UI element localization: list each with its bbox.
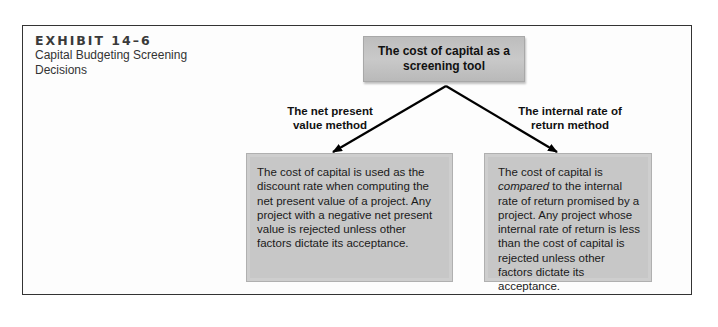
- root-node-cost-of-capital: The cost of capital as a screening tool: [363, 36, 525, 82]
- irr-description-text-end: to the internal rate of return promised …: [498, 180, 640, 292]
- irr-description-box: The cost of capital is compared to the i…: [484, 153, 652, 282]
- root-node-label: The cost of capital as a screening tool: [372, 44, 516, 74]
- npv-description-text: The cost of capital is used as the disco…: [257, 166, 432, 249]
- irr-description-text-start: The cost of capital is: [498, 166, 603, 178]
- npv-description-box: The cost of capital is used as the disco…: [246, 153, 453, 282]
- irr-method-label: The internal rate of return method: [510, 104, 630, 132]
- irr-description-emphasis: compared: [498, 180, 549, 192]
- npv-method-label: The net present value method: [275, 104, 385, 132]
